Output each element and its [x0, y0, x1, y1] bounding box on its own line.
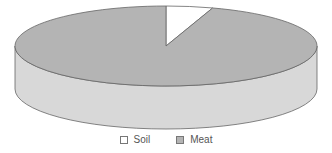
legend-label-soil: Soil — [134, 134, 151, 145]
legend-swatch-meat — [176, 136, 184, 144]
chart-legend: Soil Meat — [0, 134, 332, 145]
legend-item-meat: Meat — [176, 134, 212, 145]
legend-swatch-soil — [120, 136, 128, 144]
pie-chart — [0, 0, 332, 153]
legend-label-meat: Meat — [190, 134, 212, 145]
pie-slice-meat — [15, 6, 317, 86]
legend-item-soil: Soil — [120, 134, 151, 145]
